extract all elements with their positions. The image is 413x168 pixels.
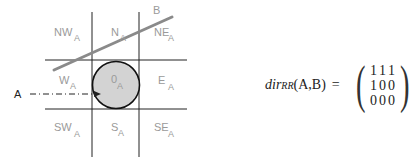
right-paren: ) (400, 59, 410, 111)
matrix-cell: 1 (387, 63, 396, 78)
tile-label: E (158, 74, 165, 86)
tile-e: E A (158, 74, 174, 92)
matrix-cell: 1 (369, 63, 378, 78)
formula-arguments: (A,B) (294, 77, 326, 93)
tile-subscript: A (168, 33, 174, 43)
matrix-cell: 0 (378, 78, 387, 93)
tile-subscript: A (117, 81, 123, 91)
direction-relation-diagram: A B NW A N A NE A W A 0 A E A SW A S A S… (0, 0, 230, 168)
tile-subscript: A (118, 128, 124, 138)
tile-w: W A (59, 74, 76, 91)
matrix-body: 1 1 1 1 0 0 0 0 0 (369, 63, 396, 108)
tile-sw: SW A (54, 121, 80, 139)
tile-label: SE (154, 121, 169, 133)
matrix-cell: 0 (378, 93, 387, 108)
tile-subscript: A (70, 81, 76, 91)
tile-subscript: A (74, 129, 80, 139)
matrix-cell: 1 (378, 63, 387, 78)
tile-subscript: A (168, 82, 174, 92)
tile-label: NW (54, 26, 73, 38)
formula-function: dir (265, 77, 281, 93)
formula-subscript: RR (281, 80, 293, 91)
matrix-cell: 0 (387, 93, 396, 108)
label-object-b: B (153, 4, 160, 16)
matrix-cell: 0 (369, 93, 378, 108)
reference-object-a (93, 62, 140, 109)
tile-subscript: A (168, 129, 174, 139)
tile-label: N (111, 26, 119, 38)
tile-s: S A (111, 121, 124, 138)
tile-label: NE (154, 26, 169, 38)
formula-equals: = (332, 77, 340, 93)
tile-subscript: A (120, 33, 126, 43)
label-object-a: A (14, 88, 22, 100)
tile-subscript: A (74, 33, 80, 43)
direction-relation-formula: dirRR(A,B) = ( 1 1 1 1 0 0 0 0 0 ) (265, 55, 413, 115)
direction-matrix: ( 1 1 1 1 0 0 0 0 0 ) (352, 59, 413, 111)
left-paren: ( (356, 59, 366, 111)
tile-ne: NE A (154, 26, 174, 43)
tile-se: SE A (154, 121, 174, 139)
tile-label: W (59, 74, 70, 86)
tile-label: SW (54, 121, 72, 133)
matrix-cell: 1 (369, 78, 378, 93)
matrix-cell: 0 (387, 78, 396, 93)
tile-nw: NW A (54, 26, 80, 43)
